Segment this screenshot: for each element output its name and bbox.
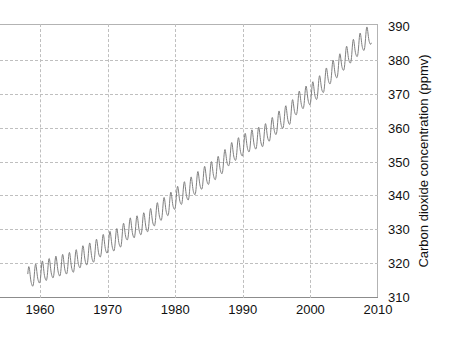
- y-tick-label-380: 380: [388, 54, 410, 67]
- y-tick-label-390: 390: [388, 20, 410, 33]
- y-tick-label-350: 350: [388, 156, 410, 169]
- y-tick-label-330: 330: [388, 223, 410, 236]
- x-tick-label-1970: 1970: [93, 303, 122, 316]
- co2-data-line: [0, 24, 378, 298]
- y-tick-label-370: 370: [388, 88, 410, 101]
- y-tick-label-320: 320: [388, 257, 410, 270]
- y-axis-title: Carbon dioxide concentration (ppmv): [413, 16, 433, 306]
- y-tick-label-340: 340: [388, 189, 410, 202]
- y-axis-title-text: Carbon dioxide concentration (ppmv): [416, 54, 431, 267]
- x-tick-label-1990: 1990: [228, 303, 257, 316]
- plot-area: [0, 24, 378, 298]
- x-tick-label-2010: 2010: [364, 303, 393, 316]
- x-tick-label-1980: 1980: [161, 303, 190, 316]
- x-tick-label-1960: 1960: [26, 303, 55, 316]
- y-tick-label-360: 360: [388, 122, 410, 135]
- co2-keeling-curve-chart: 390380370360350340330320310 196019701980…: [0, 0, 469, 338]
- x-tick-label-2000: 2000: [296, 303, 325, 316]
